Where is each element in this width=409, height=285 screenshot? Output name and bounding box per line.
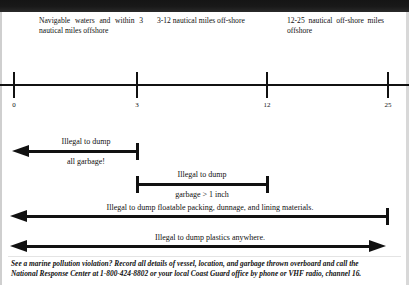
rule-all-garbage-bar (28, 150, 138, 153)
axis-tick-25 (387, 72, 389, 98)
footer-note: See a marine pollution violation? Record… (11, 259, 399, 280)
scan-artifact-top-bar (0, 0, 409, 12)
zone-label-12-25-miles-text: 12-25 nautical off-shore miles offshore (287, 16, 384, 35)
rule-all-garbage-endcap-right (136, 143, 139, 160)
footer-divider (8, 256, 401, 257)
rule-garbage-over-1-inch-line2: garbage > 1 inch (152, 190, 252, 200)
zone-label-navigable-waters: Navigable waters and within 3 nautical m… (39, 16, 143, 36)
rule-garbage-over-1-inch-bar (136, 183, 269, 186)
rule-plastics-line1: Illegal to dump plastics anywhere. (40, 233, 380, 243)
rule-garbage-over-1-inch-line1: Illegal to dump (152, 170, 252, 180)
rule-all-garbage-line1: Illegal to dump (38, 137, 134, 147)
axis-tick-label-25: 25 (376, 101, 400, 109)
axis-tick-12 (266, 72, 268, 98)
axis-tick-label-12: 12 (255, 101, 279, 109)
rule-floatable-packing-bar (26, 215, 388, 218)
axis-tick-0 (13, 72, 15, 98)
rule-floatable-packing-endcap-right (386, 208, 389, 225)
rule-plastics-arrowhead-right-icon (369, 240, 386, 252)
rule-garbage-over-1-inch-endcap-right (266, 176, 269, 193)
zone-label-12-25-miles: 12-25 nautical off-shore miles offshore (287, 16, 384, 36)
rule-garbage-over-1-inch-endcap-left (136, 176, 139, 193)
rule-all-garbage-arrowhead-left-icon (12, 145, 29, 157)
axis-tick-label-3: 3 (125, 101, 149, 109)
rule-all-garbage-line2: all garbage! (38, 157, 134, 167)
zone-headings: Navigable waters and within 3 nautical m… (0, 16, 409, 62)
zone-label-3-12-miles: 3-12 nautical miles off-shore (157, 16, 257, 26)
poster-page: Navigable waters and within 3 nautical m… (0, 0, 409, 285)
rule-plastics-bar (26, 245, 370, 248)
rule-plastics-arrowhead-left-icon (10, 240, 27, 252)
zone-label-navigable-waters-text: Navigable waters and within 3 nautical m… (39, 16, 143, 35)
rule-floatable-packing-arrowhead-left-icon (10, 210, 27, 222)
zone-label-3-12-miles-text: 3-12 nautical miles off-shore (157, 16, 245, 25)
rule-floatable-packing-line1: Illegal to dump floatable packing, dunna… (40, 203, 380, 213)
axis-tick-3 (136, 72, 138, 98)
distance-axis-line (0, 84, 409, 86)
footer-note-line1: See a marine pollution violation? Record… (11, 259, 399, 269)
footer-note-line2: National Response Center at 1-800-424-88… (11, 269, 399, 279)
axis-tick-label-0: 0 (2, 101, 26, 109)
